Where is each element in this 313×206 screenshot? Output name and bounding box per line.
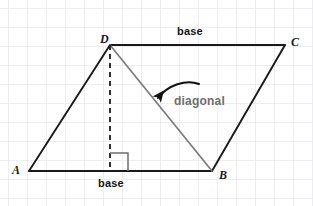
vertex-label-a: A	[12, 164, 20, 176]
annotation-diagonal: diagonal	[174, 95, 225, 107]
vertex-label-c: C	[291, 36, 299, 48]
annotation-base-bottom: base	[98, 178, 124, 189]
vertex-label-d: D	[100, 33, 109, 45]
figure-canvas	[0, 0, 313, 206]
parallelogram-figure: A B C D base base diagonal	[0, 0, 313, 206]
vertex-label-b: B	[219, 169, 227, 181]
annotation-base-top: base	[177, 26, 203, 37]
